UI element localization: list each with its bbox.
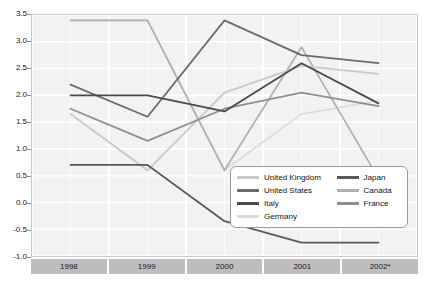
- x-axis-tick-label: 1999: [109, 259, 187, 274]
- x-axis-tick-label: 2001: [264, 259, 342, 274]
- legend-column-right: JapanCanadaFrance: [337, 171, 401, 223]
- y-axis-tick-label: 3.0: [16, 37, 27, 45]
- y-axis-tick-label: 1.0: [16, 145, 27, 153]
- legend-label: Italy: [264, 199, 279, 208]
- legend-color-swatch: [237, 176, 259, 179]
- y-axis-tick-label: 3.5: [16, 10, 27, 18]
- legend-color-swatch: [237, 215, 259, 218]
- legend-label: France: [364, 199, 389, 208]
- legend-label: Japan: [364, 173, 386, 182]
- legend-entry[interactable]: Japan: [337, 171, 401, 184]
- x-axis-tick-label: 1998: [31, 259, 109, 274]
- legend-entry[interactable]: France: [337, 197, 401, 210]
- legend-label: Germany: [264, 212, 297, 221]
- legend-label: United Kingdom: [264, 173, 321, 182]
- y-axis-tick-label: -0.5: [13, 226, 27, 234]
- legend-label: Canada: [364, 186, 392, 195]
- legend-column-left: United KingdomUnited StatesItalyGermany: [237, 171, 337, 223]
- legend-entry[interactable]: United Kingdom: [237, 171, 337, 184]
- legend-entry[interactable]: United States: [237, 184, 337, 197]
- legend-entry[interactable]: Canada: [337, 184, 401, 197]
- x-axis-tick-label: 2002*: [342, 259, 418, 274]
- x-axis-tick-label: 2000: [187, 259, 265, 274]
- y-axis-tick-label: 0.0: [16, 199, 27, 207]
- legend-color-swatch: [337, 176, 359, 179]
- legend-entry[interactable]: Germany: [237, 210, 337, 223]
- y-axis: 3.53.02.52.01.51.00.50.0-0.5-1.0: [0, 0, 31, 282]
- line-chart: 3.53.02.52.01.51.00.50.0-0.5-1.0 1998199…: [0, 0, 423, 282]
- y-axis-tick-label: 2.5: [16, 64, 27, 72]
- legend-color-swatch: [337, 189, 359, 192]
- y-axis-tick-mark: [27, 257, 31, 258]
- legend-label: United States: [264, 186, 312, 195]
- x-axis: 19981999200020012002*: [31, 259, 418, 274]
- y-axis-tick-label: 2.0: [16, 91, 27, 99]
- legend-color-swatch: [237, 202, 259, 205]
- legend-color-swatch: [337, 202, 359, 205]
- y-axis-tick-label: 1.5: [16, 118, 27, 126]
- legend: United KingdomUnited StatesItalyGermany …: [230, 166, 408, 228]
- legend-color-swatch: [237, 189, 259, 192]
- y-axis-tick-label: 0.5: [16, 172, 27, 180]
- legend-entry[interactable]: Italy: [237, 197, 337, 210]
- y-axis-tick-label: -1.0: [13, 253, 27, 261]
